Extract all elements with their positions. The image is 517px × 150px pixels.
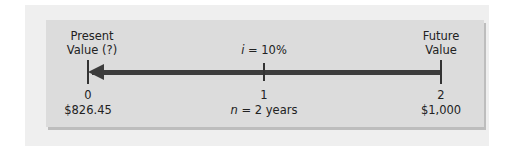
present-value-amount: $826.45 — [64, 103, 112, 117]
present-value-label: Present Value (?) — [67, 29, 117, 57]
future-label-line2: Value — [423, 43, 460, 57]
periods-label: n = 2 years — [231, 103, 298, 117]
tick-0 — [87, 60, 89, 84]
tick-2 — [440, 60, 442, 84]
period-0: 0 — [84, 88, 91, 102]
future-label-line1: Future — [423, 29, 460, 43]
period-2: 2 — [437, 88, 444, 102]
interest-rate-label: i = 10% — [241, 43, 287, 57]
period-1: 1 — [260, 88, 267, 102]
future-value-amount: $1,000 — [421, 103, 461, 117]
arrow-left-icon — [88, 64, 104, 80]
timeline-line — [92, 70, 441, 75]
present-label-line1: Present — [67, 29, 117, 43]
rate-value: = 10% — [244, 43, 287, 57]
tick-1 — [263, 63, 265, 81]
present-label-line2: Value (?) — [67, 43, 117, 57]
n-value: = 2 years — [238, 103, 298, 117]
future-value-label: Future Value — [423, 29, 460, 57]
